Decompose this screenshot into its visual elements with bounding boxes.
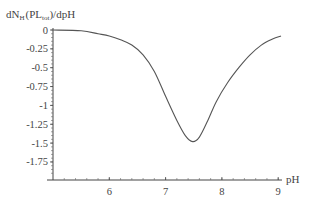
y-axis-title: dNH(PLtot)/dpH — [6, 8, 75, 22]
x-tick-label: 8 — [219, 186, 224, 197]
y-tick-label: -0.75 — [26, 81, 48, 92]
y-tick-label: -1 — [39, 100, 48, 111]
x-tick-label: 9 — [276, 186, 281, 197]
axes — [47, 28, 282, 180]
y-ticks: 0-0.25-0.5-0.75-1-1.25-1.5-1.75 — [26, 25, 53, 174]
x-tick-label: 7 — [163, 186, 168, 197]
y-tick-label: -1.5 — [31, 138, 48, 149]
y-tick-label: -0.5 — [31, 62, 48, 73]
data-line — [53, 30, 281, 142]
chart-svg: dNH(PLtot)/dpH 0-0.25-0.5-0.75-1-1.25-1.… — [0, 0, 318, 206]
y-tick-label: -1.75 — [26, 156, 48, 167]
y-tick-label: -1.25 — [26, 119, 48, 130]
x-axis-title: pH — [286, 173, 300, 185]
y-tick-label: 0 — [43, 25, 48, 36]
svg-text:dNH(PLtot)/dpH: dNH(PLtot)/dpH — [6, 8, 75, 22]
y-tick-label: -0.25 — [26, 43, 48, 54]
x-tick-label: 6 — [107, 186, 112, 197]
